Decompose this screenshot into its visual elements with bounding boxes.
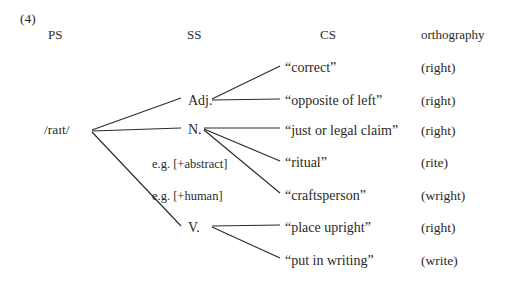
orthography-node-right: (right): [421, 94, 456, 108]
orthography-node-write: (write): [421, 254, 458, 268]
ss-node-v: V.: [188, 221, 200, 235]
example-number: (4): [20, 12, 36, 26]
edge-ss-adj-to-cs-opposite-left: [212, 99, 280, 100]
orthography-node-rite: (rite): [421, 156, 448, 170]
cs-node-put-in-writing: “put in writing”: [285, 254, 374, 268]
column-header-ps: PS: [48, 28, 62, 41]
ss-node-eg-abstract: e.g. [+abstract]: [152, 158, 227, 171]
edge-ss-adj-to-cs-correct: [212, 66, 280, 99]
tree-edges: [0, 0, 507, 285]
edge-ss-v-to-cs-place-upright: [212, 225, 280, 226]
linguistic-mapping-figure: (4) PSSSCSorthography /raɪt/ Adj.N.e.g. …: [0, 0, 507, 285]
orthography-node-right: (right): [421, 124, 456, 138]
orthography-node-right: (right): [421, 61, 456, 75]
ss-node-adj: Adj.: [188, 94, 213, 108]
cs-node-ritual: “ritual”: [285, 156, 327, 170]
column-header-ss: SS: [187, 28, 201, 41]
ss-node-eg-human: e.g. [+human]: [152, 190, 223, 203]
orthography-node-right: (right): [421, 221, 456, 235]
edge-ss-v-to-cs-put-in-writing: [212, 227, 280, 258]
cs-node-place-upright: “place upright”: [285, 221, 371, 235]
cs-node-craftsperson: “craftsperson”: [285, 189, 366, 203]
cs-node-correct: “correct”: [285, 61, 336, 75]
column-header-cs: CS: [320, 28, 336, 41]
ss-node-n: N.: [188, 123, 202, 137]
cs-node-opposite-of-left: “opposite of left”: [285, 94, 382, 108]
edge-ps-raɪt-to-ss-v: [92, 132, 181, 226]
cs-node-just-or-legal-claim: “just or legal claim”: [285, 124, 398, 138]
orthography-node-wright: (wright): [421, 189, 465, 203]
edge-ps-raɪt-to-ss-n: [92, 128, 181, 131]
edge-ps-raɪt-to-ss-adj: [92, 98, 181, 130]
column-header-orthography: orthography: [421, 28, 485, 41]
ps-node-raɪt: /raɪt/: [44, 123, 70, 137]
